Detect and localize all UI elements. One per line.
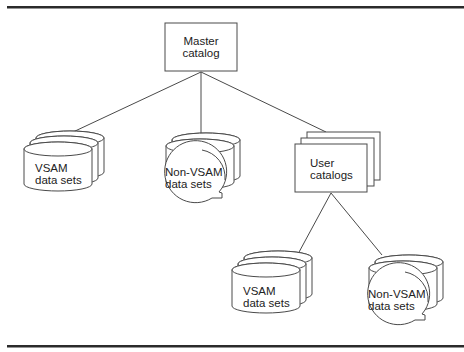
- user-catalog-connectors: [298, 193, 382, 255]
- master-connectors: [73, 72, 326, 133]
- user-catalogs-line2: catalogs: [310, 169, 353, 181]
- user-catalogs-label: User catalogs: [310, 157, 353, 181]
- vsam-left-line1: VSAM: [35, 162, 82, 174]
- vsam-right-line2: data sets: [243, 297, 290, 309]
- user-catalogs-line1: User: [310, 157, 353, 169]
- vsam-right-label: VSAM data sets: [243, 285, 290, 309]
- master-catalog-line2: catalog: [165, 47, 237, 59]
- vsam-left-label: VSAM data sets: [35, 162, 82, 186]
- nonvsam-left-label: Non-VSAM data sets: [165, 166, 223, 190]
- vsam-right-line1: VSAM: [243, 285, 290, 297]
- top-rule: [7, 6, 464, 9]
- vsam-left-line2: data sets: [35, 174, 82, 186]
- nonvsam-left-line2: data sets: [165, 178, 223, 190]
- nonvsam-right-line2: data sets: [368, 300, 426, 312]
- nonvsam-right-line1: Non-VSAM: [368, 288, 426, 300]
- nonvsam-right-label: Non-VSAM data sets: [368, 288, 426, 312]
- master-catalog-line1: Master: [165, 35, 237, 47]
- master-catalog-label: Master catalog: [165, 35, 237, 59]
- nonvsam-left-line1: Non-VSAM: [165, 166, 223, 178]
- bottom-rule: [7, 345, 464, 348]
